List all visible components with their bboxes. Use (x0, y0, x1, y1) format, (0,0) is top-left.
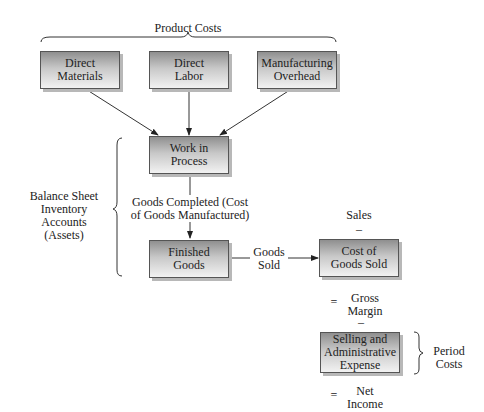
goods-completed-label: Goods Completed (Cost of Goods Manufactu… (130, 196, 250, 222)
gross-margin-label: Gross Margin (340, 292, 390, 318)
sales-label: Sales (330, 209, 388, 222)
goods-sold-label: Goods Sold (250, 246, 288, 272)
product-costs-label: Product Costs (138, 22, 238, 35)
period-costs-label: Period Costs (424, 345, 474, 371)
direct-materials-box: Direct Materials (40, 51, 120, 89)
period-costs-brace (414, 332, 423, 374)
net-income-label: Net Income (340, 385, 390, 411)
cost-of-goods-sold-box: Cost of Goods Sold (319, 239, 399, 277)
balance-sheet-brace (113, 138, 122, 276)
equals-sign-2: = (328, 389, 340, 402)
minus-sign-1: – (350, 223, 368, 236)
cost-flow-diagram: Product Costs Direct Materials Direct La… (0, 0, 484, 412)
balance-sheet-label: Balance Sheet Inventory Accounts (Assets… (18, 190, 110, 242)
finished-goods-box: Finished Goods (149, 240, 229, 278)
direct-labor-box: Direct Labor (149, 51, 229, 89)
minus-sign-2: – (355, 316, 367, 329)
equals-sign-1: = (328, 296, 340, 309)
manufacturing-overhead-box: Manufacturing Overhead (257, 51, 337, 89)
work-in-process-box: Work in Process (149, 136, 229, 174)
selling-admin-expense-box: Selling and Administrative Expense (320, 332, 400, 373)
